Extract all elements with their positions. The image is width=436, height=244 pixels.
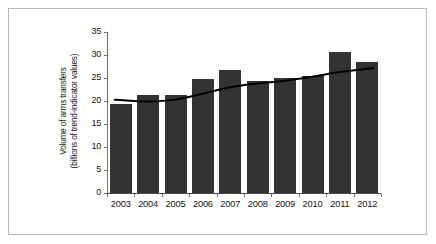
trend-line — [0, 0, 436, 244]
plot-area: Volume of arms transfers (billions of tr… — [0, 0, 436, 244]
chart-figure: Volume of arms transfers (billions of tr… — [0, 0, 436, 244]
